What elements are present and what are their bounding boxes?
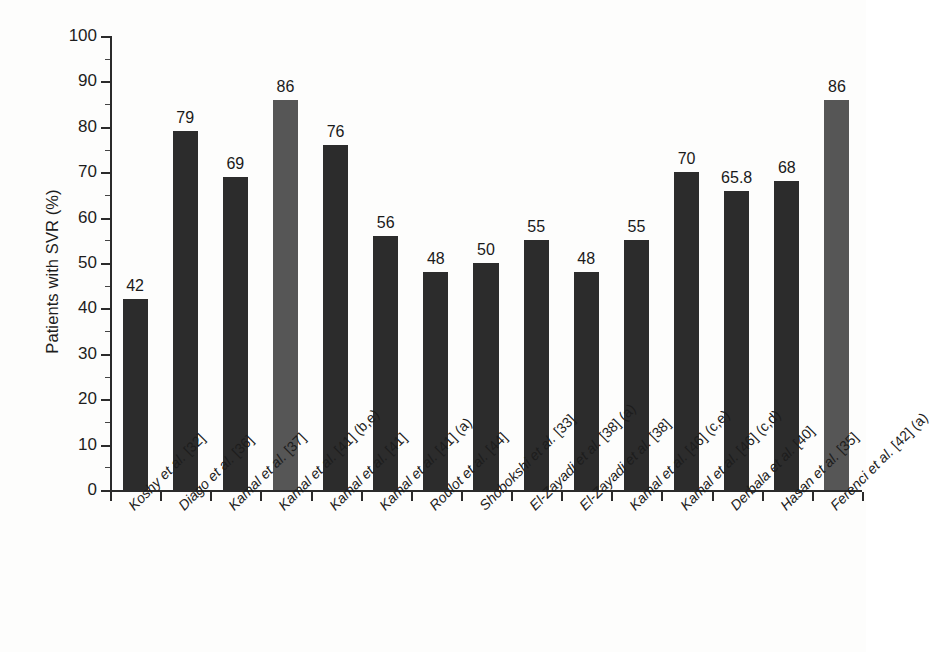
y-minor-tick	[105, 377, 110, 378]
y-tick-label: 10	[78, 435, 97, 455]
y-tick-mark	[101, 263, 110, 265]
y-minor-tick	[105, 240, 110, 241]
bar-value-label: 70	[678, 150, 696, 168]
y-minor-tick	[105, 467, 110, 468]
bar-value-label: 69	[226, 155, 244, 173]
y-tick-label: 30	[78, 344, 97, 364]
y-tick-mark	[101, 308, 110, 310]
y-tick-mark	[101, 172, 110, 174]
bar-value-label: 50	[477, 241, 495, 259]
y-minor-tick	[105, 150, 110, 151]
bar-value-label: 55	[627, 218, 645, 236]
y-tick-label: 0	[88, 480, 97, 500]
y-axis-line	[110, 36, 112, 490]
y-minor-tick	[105, 422, 110, 423]
y-tick-mark	[101, 490, 110, 492]
x-tick-mark	[611, 492, 613, 501]
x-tick-mark	[762, 492, 764, 501]
y-tick-label: 90	[78, 71, 97, 91]
y-minor-tick	[105, 286, 110, 287]
x-tick-mark	[661, 492, 663, 501]
x-tick-mark	[210, 492, 212, 501]
y-tick-label: 100	[69, 26, 97, 46]
bar-value-label: 42	[126, 277, 144, 295]
y-tick-mark	[101, 127, 110, 129]
y-tick-mark	[101, 218, 110, 220]
bar-value-label: 86	[828, 78, 846, 96]
x-tick-mark	[110, 492, 112, 501]
x-tick-mark	[561, 492, 563, 501]
bar-value-label: 48	[577, 250, 595, 268]
y-tick-label: 20	[78, 389, 97, 409]
y-minor-tick	[105, 195, 110, 196]
y-minor-tick	[105, 104, 110, 105]
x-tick-mark	[260, 492, 262, 501]
y-tick-mark	[101, 399, 110, 401]
y-minor-tick	[105, 331, 110, 332]
bar-value-label: 56	[377, 214, 395, 232]
plot-area: 0102030405060708090100 42796986765648505…	[110, 36, 862, 490]
y-tick-label: 70	[78, 162, 97, 182]
x-tick-mark	[812, 492, 814, 501]
y-tick-label: 40	[78, 298, 97, 318]
y-tick-label: 60	[78, 208, 97, 228]
bar-value-label: 76	[327, 123, 345, 141]
bar-value-label: 86	[277, 78, 295, 96]
bar-value-label: 79	[176, 109, 194, 127]
x-tick-mark	[160, 492, 162, 501]
bar-rect	[123, 299, 148, 490]
x-tick-mark	[461, 492, 463, 501]
y-tick-mark	[101, 445, 110, 447]
bar-value-label: 68	[778, 159, 796, 177]
y-tick-mark	[101, 36, 110, 38]
bar-value-label: 65.8	[721, 169, 752, 187]
x-tick-mark	[411, 492, 413, 501]
x-tick-mark	[511, 492, 513, 501]
y-tick-label: 50	[78, 253, 97, 273]
y-tick-mark	[101, 354, 110, 356]
y-tick-label: 80	[78, 117, 97, 137]
bar-value-label: 48	[427, 250, 445, 268]
x-tick-mark	[862, 492, 864, 501]
x-tick-mark	[361, 492, 363, 501]
y-minor-tick	[105, 59, 110, 60]
y-tick-mark	[101, 81, 110, 83]
x-tick-mark	[712, 492, 714, 501]
bar: 42	[123, 299, 148, 490]
y-axis-title: Patients with SVR (%)	[43, 112, 62, 432]
bar-value-label: 55	[527, 218, 545, 236]
x-tick-mark	[311, 492, 313, 501]
